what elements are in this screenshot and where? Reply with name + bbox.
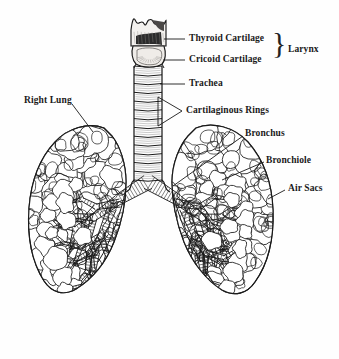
tube-wall [168, 263, 178, 265]
air-sac-cluster [206, 291, 223, 308]
cartilaginous-ring [134, 163, 162, 164]
air-sac-cluster [190, 296, 211, 314]
cartilage-rib [191, 291, 193, 293]
bronchiole-segment [118, 260, 129, 264]
cartilage-rib [190, 276, 192, 277]
tube-wall [175, 264, 177, 275]
cartilage-rib [115, 260, 117, 263]
cartilage-rib [103, 273, 105, 274]
ring-shading [136, 176, 161, 177]
cartilaginous-ring [134, 154, 162, 155]
cartilage-rib [125, 261, 126, 263]
cartilage-rib [176, 271, 178, 272]
ring-shading [136, 103, 161, 104]
label-cricoid-cartilage: Cricoid Cartilage [189, 54, 262, 64]
cartilaginous-ring [134, 92, 162, 93]
ring-shading [136, 121, 161, 122]
ring-shading [136, 116, 161, 117]
cartilaginous-ring [134, 180, 162, 181]
cartilage-rib [98, 273, 99, 275]
cartilage-rib [136, 181, 143, 193]
cartilage-rib [191, 267, 194, 268]
bronchiole-segment [168, 263, 179, 267]
cartilage-rib [180, 261, 182, 263]
tube-wall [168, 266, 179, 267]
label-thyroid-cartilage: Thyroid Cartilage [189, 33, 264, 43]
bronchiole-segment [192, 269, 201, 278]
label-cartilaginous-rings: Cartilaginous Rings [186, 105, 269, 115]
tube-wall [117, 264, 119, 273]
cartilage-rib [134, 183, 141, 195]
trachea-group [126, 66, 170, 192]
cartilage-rib [176, 268, 179, 269]
cartilage-rib [104, 276, 106, 277]
label-bronchiole: Bronchiole [266, 155, 311, 165]
bronchiole-segment [189, 270, 194, 280]
cartilage-rib [190, 264, 193, 265]
tube-wall [195, 273, 201, 289]
air-sac-cluster [98, 273, 117, 294]
air-sac-cluster [179, 274, 199, 295]
ring-shading [136, 149, 161, 150]
bronchiole-segment [187, 288, 198, 297]
tube-wall [192, 271, 200, 278]
cartilaginous-ring [134, 145, 162, 146]
cartilage-rib [153, 181, 160, 193]
cartilage-rib [197, 274, 199, 276]
air-sac-cluster [164, 270, 185, 289]
air-sac-cluster [174, 251, 196, 274]
cartilage-rib [101, 290, 103, 293]
ring-shading [136, 114, 161, 115]
cartilage-rib [197, 294, 200, 295]
cartilage-rib [99, 271, 100, 273]
air-sac-cluster [89, 297, 106, 312]
cartilage-rib [194, 271, 196, 273]
air-sac-cluster [164, 152, 196, 189]
ring-shading [136, 99, 161, 100]
tube-wall [199, 275, 206, 290]
respiratory-system-diagram: Thyroid CartilageCricoid Cartilage}Laryn… [0, 0, 339, 359]
cartilaginous-ring [134, 136, 162, 137]
bronchiole-segment [195, 289, 200, 301]
tube-wall [187, 256, 192, 271]
tube-wall [180, 257, 191, 266]
tube-wall [119, 262, 129, 264]
cartilage-rib [112, 258, 114, 261]
cartilage-rib [103, 292, 105, 294]
cartilage-rib [185, 256, 188, 259]
air-sac-cluster [126, 252, 141, 268]
tube-wall [98, 290, 108, 297]
tube-wall [187, 288, 196, 295]
cartilage-rib [183, 259, 185, 262]
label-right-lung: Right Lung [24, 95, 72, 105]
ring-shading [136, 73, 161, 74]
tube-wall [118, 260, 128, 262]
label-larynx: Larynx [288, 44, 319, 54]
ring-shading [136, 158, 161, 159]
ring-shading [136, 132, 161, 133]
cartilage-rib [161, 187, 167, 198]
ring-shading [136, 77, 161, 78]
cartilage-rib [201, 275, 203, 276]
tube-wall [188, 290, 198, 296]
larynx-group [131, 19, 166, 68]
bronchiole-segment [101, 270, 107, 280]
tube-wall [191, 271, 195, 280]
cartilage-rib [200, 277, 203, 279]
cartilaginous-ring [134, 84, 162, 85]
ring-shading [136, 97, 161, 98]
bronchiole-segment [117, 263, 121, 273]
tube-wall [101, 271, 106, 280]
label-bronchus: Bronchus [245, 128, 285, 138]
ring-shading [136, 70, 161, 71]
tube-wall [199, 289, 201, 300]
cartilage-rib [102, 267, 105, 268]
ring-shading [136, 95, 161, 96]
cartilage-rib [118, 266, 121, 267]
cartilage-rib [131, 185, 138, 196]
tube-wall [120, 263, 121, 272]
bronchiole-segment [98, 288, 110, 298]
ring-shading [136, 138, 161, 139]
tube-wall [177, 265, 180, 275]
tube-wall [211, 285, 213, 294]
